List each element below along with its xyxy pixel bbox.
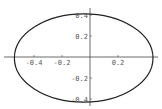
y-tick-label: -0.4 — [71, 96, 88, 104]
x-tick-label: -0.2 — [54, 59, 71, 67]
ellipse-plot: -0.4-0.20.20.40.2-0.2-0.4 — [0, 0, 162, 109]
x-tick-label: -0.4 — [26, 59, 43, 67]
axes — [4, 8, 158, 106]
x-tick-label: 0.2 — [112, 59, 125, 67]
y-tick-label: 0.4 — [75, 12, 88, 20]
y-tick-label: 0.2 — [75, 33, 88, 41]
tick-labels: -0.4-0.20.20.40.2-0.2-0.4 — [26, 12, 125, 104]
y-tick-label: -0.2 — [71, 75, 88, 83]
